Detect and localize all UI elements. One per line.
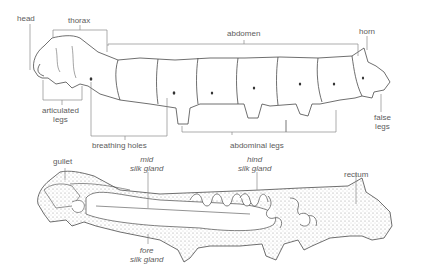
external-silkworm-body [33, 36, 390, 124]
internal-silkworm-section [38, 171, 392, 262]
label-abdomen: abdomen [227, 29, 260, 38]
label-articulated-legs: articulated legs [42, 106, 79, 124]
label-gullet: gullet [53, 157, 72, 166]
label-articulated-legs-line2: legs [42, 115, 79, 124]
label-fore-silk-gland: fore silk gland [130, 246, 163, 264]
label-hind-silk-gland: hind silk gland [238, 155, 271, 173]
label-mid-silk-gland-line1: mid [130, 155, 163, 164]
label-hind-silk-gland-line2: silk gland [238, 164, 271, 173]
label-hind-silk-gland-line1: hind [238, 155, 271, 164]
label-mid-silk-gland: mid silk gland [130, 155, 163, 173]
label-mid-silk-gland-line2: silk gland [130, 164, 163, 173]
silkworm-diagram [0, 0, 421, 278]
label-false-legs-line1: false [374, 113, 391, 122]
label-rectum: rectum [344, 170, 368, 179]
label-thorax: thorax [68, 16, 90, 25]
label-false-legs-line2: legs [374, 122, 391, 131]
label-false-legs: false legs [374, 113, 391, 131]
label-fore-silk-gland-line1: fore [130, 246, 163, 255]
label-horn: horn [359, 27, 375, 36]
label-head: head [17, 14, 35, 23]
label-fore-silk-gland-line2: silk gland [130, 255, 163, 264]
label-abdominal-legs: abdominal legs [230, 141, 284, 150]
label-breathing-holes: breathing holes [92, 141, 147, 150]
label-articulated-legs-line1: articulated [42, 106, 79, 115]
